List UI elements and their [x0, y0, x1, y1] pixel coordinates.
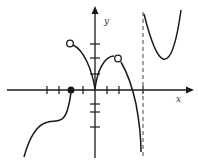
- y-axis-label: y: [103, 16, 110, 26]
- open-circle-left: [67, 40, 74, 47]
- y-axis-arrow-icon: [92, 6, 99, 14]
- cusp-right-arc: [95, 56, 114, 89]
- descending-branch: [121, 62, 141, 152]
- cusp-left-arc: [73, 45, 95, 89]
- curves: [24, 10, 181, 157]
- left-branch: [24, 90, 71, 157]
- function-graph: y x: [0, 0, 198, 162]
- x-axis-arrow-icon: [186, 87, 194, 94]
- right-u-branch: [144, 10, 181, 59]
- open-circle-right: [115, 55, 122, 62]
- closed-circle: [68, 87, 75, 94]
- x-axis-label: x: [176, 94, 181, 104]
